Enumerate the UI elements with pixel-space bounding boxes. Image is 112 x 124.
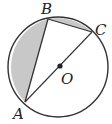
circle-diagram: B C O A [0, 0, 112, 124]
shaded-segment-ab [11, 19, 48, 102]
label-b: B [40, 0, 52, 18]
label-c: C [95, 21, 107, 39]
label-o: O [61, 70, 73, 88]
center-point-o [57, 63, 62, 68]
label-a: A [11, 105, 24, 123]
